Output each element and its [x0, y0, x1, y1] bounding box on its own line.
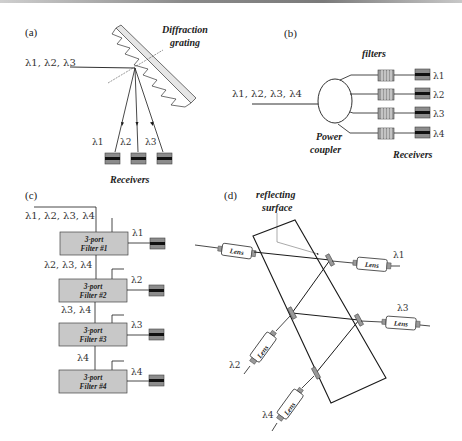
- lens-label: Lens: [393, 319, 409, 328]
- grating-label-2: grating: [169, 37, 200, 48]
- panel-d-out-4: λ4: [262, 410, 274, 420]
- panel-c: (c) λ1, λ2, λ3, λ4 3-port Filter #1 λ1 λ…: [25, 189, 165, 393]
- filter-3-pass: λ4: [77, 352, 89, 363]
- surface-label-2: surface: [261, 202, 293, 213]
- panel-b-label: (b): [284, 27, 297, 40]
- receiver-icon: [149, 375, 164, 386]
- receiver-icon: [415, 69, 430, 80]
- panel-b-receivers-label: Receivers: [392, 149, 433, 160]
- filter-1-drop: λ1: [132, 228, 143, 238]
- filter-2-line2: Filter #2: [80, 291, 107, 300]
- filter-1-line2: Filter #1: [81, 244, 108, 253]
- filter-icon: [378, 70, 394, 81]
- lens-out-3: Lens: [382, 316, 421, 331]
- panel-a-input-fiber: [70, 67, 135, 68]
- receiver-icon: [415, 107, 430, 118]
- panel-d-label: (d): [224, 189, 237, 202]
- receiver-icon: [415, 88, 430, 99]
- filter-3-line1: 3-port: [83, 326, 104, 335]
- panel-c-input-label: λ1, λ2, λ3, λ4: [25, 210, 95, 221]
- panel-a-receivers-label: Receivers: [109, 174, 150, 185]
- panel-b-out-4: λ4: [433, 129, 445, 139]
- filter-icon: [378, 89, 394, 100]
- receiver-icon: [149, 285, 164, 296]
- filter-4-line1: 3-port: [83, 373, 104, 382]
- filter-3-drop: λ3: [131, 320, 143, 330]
- panel-d-out-2: λ2: [229, 360, 240, 370]
- filter-2-drop: λ2: [131, 275, 142, 285]
- filter-4-drop: λ4: [131, 367, 143, 377]
- panel-b-input-label: λ1, λ2, λ3, λ4: [232, 88, 302, 99]
- filter-1-line1: 3-port: [84, 235, 105, 244]
- lens-label: Lens: [364, 261, 380, 270]
- filter-2-line1: 3-port: [83, 282, 104, 291]
- power-coupler: [318, 79, 352, 123]
- filter-2-pass: λ3, λ4: [61, 304, 91, 315]
- panel-b-out-1: λ1: [433, 71, 444, 81]
- receiver-icon: [157, 153, 172, 164]
- receiver-icon: [415, 127, 430, 138]
- panel-a-input-label: λ1, λ2, λ3: [25, 57, 76, 68]
- coupler-label-1: Power: [316, 131, 342, 142]
- receiver-icon: [149, 329, 164, 340]
- panel-a: (a) λ1, λ2, λ3 Diffraction grating λ1 λ2…: [25, 24, 208, 185]
- coupler-label-2: coupler: [310, 144, 341, 155]
- grating-label-1: Diffraction: [161, 24, 208, 35]
- filters-label: filters: [362, 48, 386, 59]
- panel-c-label: (c): [25, 189, 38, 202]
- lens-out-1: Lens: [352, 257, 391, 272]
- surface-label-1: reflecting: [256, 189, 295, 200]
- filter-icon: [378, 128, 394, 139]
- panel-d-out-3: λ3: [397, 303, 409, 313]
- filter-4-line2: Filter #4: [80, 382, 107, 391]
- panel-a-label: (a): [25, 26, 38, 39]
- panel-b-out-3: λ3: [433, 109, 445, 119]
- filter-icon: [378, 108, 394, 119]
- receiver-icon: [131, 153, 146, 164]
- panel-a-out-1: λ1: [92, 137, 103, 147]
- wdm-demux-figure: (a) λ1, λ2, λ3 Diffraction grating λ1 λ2…: [0, 0, 462, 441]
- panel-a-out-3: λ3: [145, 137, 157, 147]
- panel-a-out-2: λ2: [120, 137, 131, 147]
- receiver-icon: [150, 238, 165, 249]
- panel-d: (d) reflecting surface Lens Lens λ1: [195, 189, 430, 431]
- filter-3-line2: Filter #3: [80, 335, 107, 344]
- panel-b-out-2: λ2: [433, 90, 444, 100]
- panel-d-out-1: λ1: [393, 250, 404, 260]
- panel-b: (b) λ1, λ2, λ3, λ4 Power coupler filters…: [232, 27, 445, 160]
- ray-lambda2: [135, 68, 138, 152]
- lens-input: Lens: [217, 243, 256, 260]
- receiver-icon: [105, 153, 120, 164]
- filter-1-pass: λ2, λ3, λ4: [44, 259, 92, 270]
